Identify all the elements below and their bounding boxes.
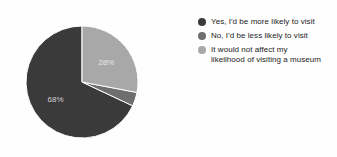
- legend-item-no[interactable]: No, I'd be less likely to visit: [198, 31, 337, 41]
- legend-item-label: Yes, I'd be more likely to visit: [211, 17, 315, 27]
- chart-legend: Yes, I'd be more likely to visit No, I'd…: [198, 17, 337, 69]
- legend-item-label: No, I'd be less likely to visit: [211, 31, 308, 41]
- slice-label-no-effect: 28%: [98, 58, 114, 67]
- legend-item-yes[interactable]: Yes, I'd be more likely to visit: [198, 17, 337, 27]
- pie-slices: [26, 26, 138, 138]
- legend-marker-icon: [198, 32, 206, 40]
- legend-marker-icon: [198, 18, 206, 26]
- chart-plot-area: 68% 28%: [0, 0, 190, 157]
- pie-svg: 68% 28%: [0, 0, 190, 157]
- pie-chart-figure: 68% 28% Yes, I'd be more likely to visit…: [0, 0, 337, 157]
- legend-item-label: It would not affect my likelihood of vis…: [211, 45, 321, 65]
- legend-marker-icon: [198, 46, 206, 54]
- legend-item-no-effect[interactable]: It would not affect my likelihood of vis…: [198, 45, 337, 65]
- slice-label-yes: 68%: [47, 95, 63, 104]
